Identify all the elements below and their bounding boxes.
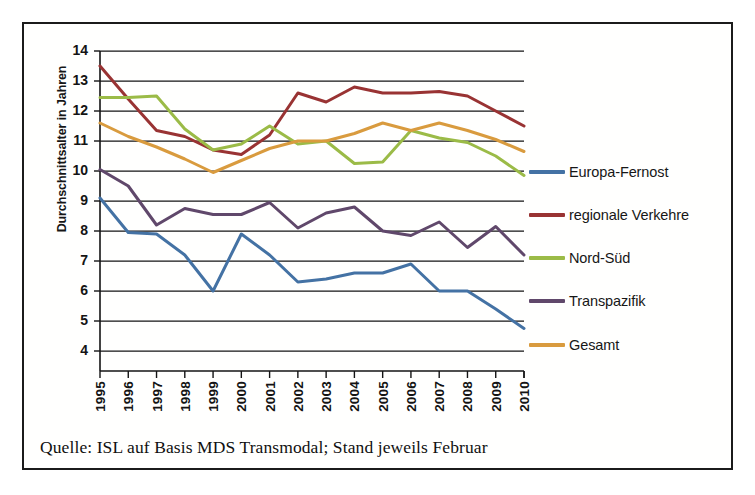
x-tick-label: 2000	[234, 381, 249, 412]
x-tick-label: 2002	[291, 381, 306, 412]
y-tick-label: 9	[62, 192, 88, 208]
x-tick-label: 2003	[319, 381, 334, 412]
x-tick-label: 2001	[263, 381, 278, 412]
series-line-2	[100, 96, 524, 176]
figure-frame: Durchschnittsalter in Jahren 45678910111…	[22, 22, 733, 470]
x-tick-label: 2008	[460, 381, 475, 412]
y-tick-label: 4	[62, 342, 88, 358]
legend-label: Gesamt	[569, 337, 619, 353]
x-tick-label: 1997	[150, 381, 165, 412]
x-tick-label: 2004	[347, 381, 362, 412]
y-tick-label: 8	[62, 222, 88, 238]
series-line-3	[100, 170, 524, 256]
legend-label: Europa-Fernost	[569, 164, 668, 180]
legend-item-2[interactable]: Nord-Süd	[529, 250, 729, 266]
legend-label: regionale Verkehre	[569, 207, 689, 223]
y-tick-label: 10	[62, 162, 88, 178]
legend-color-swatch	[529, 256, 565, 260]
legend-color-swatch	[529, 213, 565, 217]
figure-caption: Quelle: ISL auf Basis MDS Transmodal; St…	[40, 437, 488, 458]
legend-color-swatch	[529, 299, 565, 303]
x-tick-label: 2006	[404, 381, 419, 412]
x-tick-label: 1998	[178, 381, 193, 412]
legend-label: Nord-Süd	[569, 250, 630, 266]
y-tick-label: 11	[62, 132, 88, 148]
y-tick-label: 6	[62, 282, 88, 298]
legend-label: Transpazifik	[569, 293, 645, 309]
y-tick-label: 14	[62, 42, 88, 58]
legend-item-3[interactable]: Transpazifik	[529, 293, 729, 309]
x-tick-label: 2010	[517, 381, 532, 412]
y-tick-label: 13	[62, 72, 88, 88]
legend-item-1[interactable]: regionale Verkehre	[529, 207, 729, 223]
legend-color-swatch	[529, 170, 565, 174]
y-tick-label: 12	[62, 102, 88, 118]
x-tick-label: 2007	[432, 381, 447, 412]
x-tick-label: 1995	[93, 381, 108, 412]
y-tick-label: 7	[62, 252, 88, 268]
x-tick-label: 1999	[206, 381, 221, 412]
legend-item-4[interactable]: Gesamt	[529, 337, 729, 353]
y-tick-label: 5	[62, 312, 88, 328]
legend-color-swatch	[529, 343, 565, 347]
series-line-0	[100, 198, 524, 329]
x-tick-label: 2009	[489, 381, 504, 412]
x-tick-label: 1996	[121, 381, 136, 412]
x-tick-label: 2005	[376, 381, 391, 412]
series-line-4	[100, 123, 524, 173]
legend-item-0[interactable]: Europa-Fernost	[529, 164, 729, 180]
chart-legend: Europa-Fernostregionale VerkehreNord-Süd…	[529, 164, 729, 380]
